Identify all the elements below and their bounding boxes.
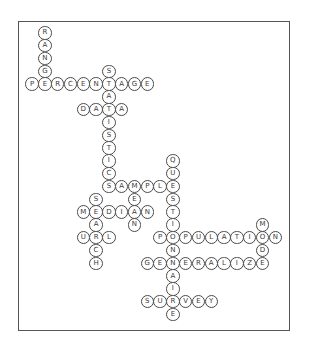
letter-cell: A <box>38 39 52 53</box>
clue-start-marker: · <box>79 104 80 107</box>
cell-letter: A <box>42 42 47 49</box>
cell-letter: S <box>94 196 98 203</box>
letter-cell: E <box>192 295 206 309</box>
cell-letter: H <box>93 260 98 267</box>
letter-cell: L <box>102 231 116 245</box>
cell-letter: P <box>145 183 149 190</box>
letter-cell: T <box>102 77 116 91</box>
cell-letter: R <box>196 260 201 267</box>
cell-letter: N <box>170 260 175 267</box>
cell-letter: N <box>93 81 98 88</box>
cell-letter: R <box>42 29 47 36</box>
cell-letter: A <box>170 273 175 280</box>
letter-cell: ·S <box>141 295 155 309</box>
clue-start-marker: · <box>79 206 80 209</box>
letter-cell: U <box>192 231 206 245</box>
cell-letter: E <box>171 311 175 318</box>
cell-letter: E <box>145 81 149 88</box>
letter-cell: R <box>192 257 206 271</box>
cell-letter: I <box>108 157 110 164</box>
letter-cell: A <box>115 180 129 194</box>
cell-letter: I <box>236 260 238 267</box>
cell-letter: I <box>172 221 174 228</box>
letter-cell: A <box>128 205 142 219</box>
cell-letter: S <box>107 183 111 190</box>
letter-cell: ·P <box>153 231 167 245</box>
letter-cell: ·Q <box>166 154 180 168</box>
letter-cell: U <box>153 295 167 309</box>
cell-letter: L <box>222 260 226 267</box>
cell-letter: E <box>183 260 187 267</box>
cell-letter: C <box>106 170 111 177</box>
cell-letter: L <box>209 234 213 241</box>
cell-letter: N <box>132 221 137 228</box>
letter-cell: D <box>102 205 116 219</box>
clue-start-marker: · <box>40 27 41 30</box>
letter-cell: E <box>256 257 270 271</box>
cell-letter: Y <box>209 298 213 305</box>
cell-letter: M <box>131 183 137 190</box>
cell-letter: C <box>68 81 73 88</box>
letter-cell: Z <box>243 257 257 271</box>
letter-cell: N <box>166 244 180 258</box>
cell-letter: A <box>222 234 227 241</box>
cell-letter: G <box>42 68 47 75</box>
cell-letter: P <box>30 81 34 88</box>
letter-cell: E <box>128 193 142 207</box>
cell-letter: E <box>132 196 136 203</box>
cell-letter: A <box>94 221 99 228</box>
cell-letter: N <box>145 209 150 216</box>
cell-letter: E <box>43 81 47 88</box>
letter-cell: ·P <box>25 77 39 91</box>
cell-letter: N <box>273 234 278 241</box>
cell-letter: T <box>107 81 111 88</box>
letter-cell: T <box>230 231 244 245</box>
letter-cell: E <box>153 257 167 271</box>
letter-cell: A <box>115 103 129 117</box>
letter-cell: ·S <box>89 193 103 207</box>
letter-cell: A <box>205 257 219 271</box>
cell-letter: S <box>107 132 111 139</box>
letter-cell: ·M <box>128 180 142 194</box>
letter-cell: E <box>38 77 52 91</box>
letter-cell: P <box>141 180 155 194</box>
letter-cell: N <box>128 218 142 232</box>
letter-cell: L <box>205 231 219 245</box>
letter-cell: N <box>269 231 283 245</box>
letter-cell: U <box>166 167 180 181</box>
cell-letter: P <box>158 234 162 241</box>
cell-letter: M <box>259 221 265 228</box>
cell-letter: T <box>235 234 239 241</box>
cell-letter: T <box>171 209 175 216</box>
cell-letter: L <box>107 234 111 241</box>
cell-letter: O <box>170 234 176 241</box>
letter-cell: I <box>166 282 180 296</box>
cell-letter: T <box>107 106 111 113</box>
clue-start-marker: · <box>258 219 259 222</box>
letter-cell: L <box>217 257 231 271</box>
letter-cell: N <box>89 77 103 91</box>
letter-cell: O <box>166 231 180 245</box>
letter-cell: S <box>166 193 180 207</box>
letter-cell: T <box>102 141 116 155</box>
clue-start-marker: · <box>155 232 156 235</box>
letter-cell: A <box>89 103 103 117</box>
letter-cell: E <box>166 180 180 194</box>
cell-letter: P <box>184 234 188 241</box>
letter-cell: A <box>217 231 231 245</box>
cell-letter: E <box>81 81 85 88</box>
letter-cell: ·R <box>38 26 52 40</box>
cell-letter: D <box>81 106 86 113</box>
cell-letter: M <box>80 209 86 216</box>
clue-start-marker: · <box>143 258 144 261</box>
letter-cell: E <box>89 205 103 219</box>
cell-letter: Q <box>170 157 176 164</box>
letter-cell: ·S <box>102 180 116 194</box>
letter-cell: V <box>179 295 193 309</box>
letter-cell: I <box>102 154 116 168</box>
letter-cell: N <box>166 257 180 271</box>
clue-start-marker: · <box>104 66 105 69</box>
letter-cell: E <box>141 77 155 91</box>
cell-letter: E <box>94 209 98 216</box>
letter-cell: N <box>38 52 52 66</box>
